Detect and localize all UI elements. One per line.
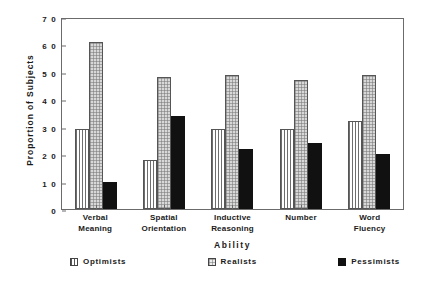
x-category-label-line: Inductive	[200, 212, 264, 223]
x-category-label-line: Number	[269, 212, 333, 223]
legend-swatch-icon	[338, 258, 346, 266]
bar-optimists	[75, 129, 89, 209]
x-category-label-line: Reasoning	[200, 223, 264, 234]
x-category-label-line: Spatial	[132, 212, 196, 223]
legend-label: Realists	[221, 257, 257, 266]
x-category-label: InductiveReasoning	[200, 212, 264, 234]
bar-chart-figure: Proportion of Subjects 01 02 03 04 05 06…	[0, 0, 425, 283]
bar-realists	[294, 80, 308, 209]
bar-pessimists	[308, 143, 322, 209]
legend-label: Pessimists	[351, 257, 400, 266]
bar-realists	[362, 75, 376, 209]
x-axis-title: Ability	[61, 240, 404, 250]
x-category-label: VerbalMeaning	[63, 212, 127, 234]
x-category-label-line: Orientation	[132, 223, 196, 234]
x-tick-mark	[96, 205, 97, 209]
x-tick-mark	[301, 205, 302, 209]
y-tick-label: 5 0	[42, 69, 62, 78]
x-category-label-line: Word	[338, 212, 402, 223]
legend-item-pessimists[interactable]: Pessimists	[338, 257, 400, 266]
y-tick-label: 3 0	[42, 124, 62, 133]
bar-group	[280, 19, 322, 209]
x-tick-mark	[369, 205, 370, 209]
x-category-label-line: Verbal	[63, 212, 127, 223]
x-category-label: WordFluency	[338, 212, 402, 234]
bar-pessimists	[103, 182, 117, 209]
legend-swatch-icon	[70, 258, 78, 266]
bar-group	[75, 19, 117, 209]
x-tick-mark	[232, 205, 233, 209]
bar-optimists	[143, 160, 157, 209]
plot-area: 01 02 03 04 05 06 07 0	[61, 18, 404, 210]
x-category-label: SpatialOrientation	[132, 212, 196, 234]
bar-pessimists	[376, 154, 390, 209]
bar-group	[348, 19, 390, 209]
legend-label: Optimists	[83, 257, 126, 266]
y-tick-label: 1 0	[42, 179, 62, 188]
x-category-label-line: Fluency	[338, 223, 402, 234]
bar-realists	[157, 77, 171, 209]
x-category-label: Number	[269, 212, 333, 223]
bar-groups	[62, 19, 403, 209]
legend-item-optimists[interactable]: Optimists	[70, 257, 126, 266]
y-tick-label: 2 0	[42, 152, 62, 161]
bar-pessimists	[171, 116, 185, 209]
y-tick-label: 7 0	[42, 15, 62, 24]
bar-optimists	[211, 129, 225, 209]
x-category-label-line: Meaning	[63, 223, 127, 234]
bar-group	[143, 19, 185, 209]
bar-pessimists	[239, 149, 253, 209]
x-tick-mark	[164, 205, 165, 209]
bar-group	[211, 19, 253, 209]
bar-realists	[225, 75, 239, 209]
chart-legend: OptimistsRealistsPessimists	[70, 257, 400, 266]
legend-swatch-icon	[208, 258, 216, 266]
y-axis-title: Proportion of Subjects	[25, 20, 35, 200]
y-tick-label: 6 0	[42, 42, 62, 51]
legend-item-realists[interactable]: Realists	[208, 257, 257, 266]
y-tick-label: 4 0	[42, 97, 62, 106]
bar-optimists	[280, 129, 294, 209]
bar-realists	[89, 42, 103, 209]
bar-optimists	[348, 121, 362, 209]
